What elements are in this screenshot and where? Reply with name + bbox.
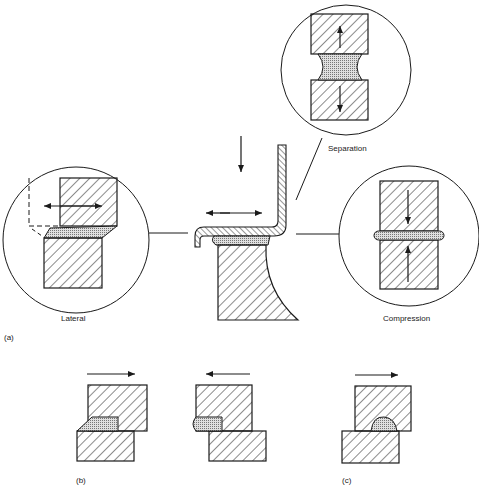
compression-label: Compression — [383, 314, 430, 323]
lateral-inset — [3, 167, 188, 313]
separation-label: Separation — [328, 144, 367, 153]
compression-inset — [296, 166, 479, 306]
panel-b-left — [77, 374, 147, 461]
panel-b-label: (b) — [76, 476, 86, 485]
bearing-failure-diagram — [0, 0, 479, 493]
panel-b-right — [193, 374, 266, 461]
central-bearing-assembly — [195, 136, 298, 320]
lateral-label: Lateral — [61, 314, 85, 323]
panel-a-label: (a) — [4, 333, 14, 342]
panel-c-label: (c) — [342, 476, 351, 485]
panel-c — [342, 375, 411, 463]
